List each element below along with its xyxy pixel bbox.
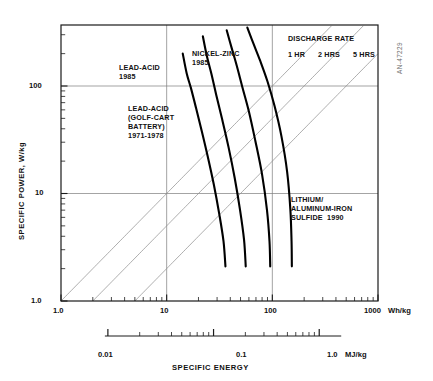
ragone-plot-figure: 100 10 1.0 SPECIFIC POWER, W/kg 1.0 10 1…: [0, 0, 433, 381]
x-tick-label-100: 100: [264, 306, 277, 315]
x2-tick-label-001: 0.01: [98, 350, 113, 359]
annotation-lead-acid-1985-line2: 1985: [119, 73, 136, 82]
discharge-rate-lines-group: [61, 26, 378, 301]
x2-tick-label-01: 0.1: [236, 350, 247, 359]
y-tick-label-10: 10: [35, 188, 43, 197]
x-tick-label-10: 10: [160, 306, 168, 315]
y-axis-title: SPECIFIC POWER, W/kg: [17, 142, 26, 240]
discharge-rate-heading: DISCHARGE RATE: [288, 35, 354, 44]
gridlines-group: [61, 25, 378, 301]
y-tick-label-100: 100: [29, 81, 42, 90]
x-tick-label-1000: 1000: [364, 306, 381, 315]
plot-frame: [61, 25, 378, 301]
x2-tick-label-10: 1.0: [327, 350, 338, 359]
annotation-lithium-line3: SULFIDE 1990: [291, 214, 344, 223]
discharge-rate-5hrs-label: 5 HRS: [353, 51, 375, 60]
x-axis-unit-label: Wh/kg: [388, 306, 411, 315]
axis-ticks-group: [61, 35, 378, 301]
secondary-x-axis-group: [105, 329, 341, 336]
y-tick-label-1: 1.0: [31, 296, 42, 305]
annotation-golf-cart-line4: 1971-1978: [128, 132, 164, 141]
discharge-rate-1hr-label: 1 HR: [288, 51, 305, 60]
x-tick-label-1: 1.0: [53, 306, 64, 315]
x-axis-title: SPECIFIC ENERGY: [172, 363, 249, 372]
x2-axis-unit-label: MJ/kg: [345, 350, 367, 359]
discharge-rate-2hrs-label: 2 HRS: [318, 51, 340, 60]
figure-code: AN-47229: [396, 42, 403, 74]
annotation-nickel-zinc-line2: 1985: [192, 59, 209, 68]
